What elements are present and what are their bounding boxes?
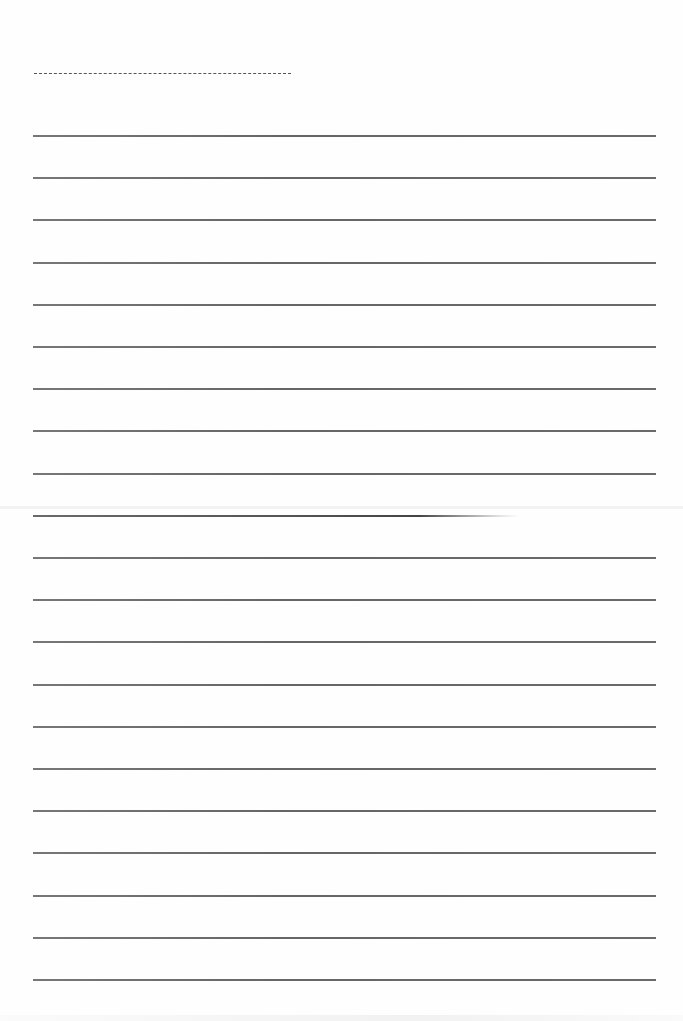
ruled-line — [33, 810, 656, 812]
ruled-line — [33, 219, 656, 221]
ruled-line — [33, 599, 656, 601]
lined-paper-page — [0, 0, 683, 1021]
ruled-line — [33, 726, 656, 728]
ruled-line — [33, 304, 656, 306]
ruled-line — [33, 177, 656, 179]
ruled-line — [33, 388, 656, 390]
ruled-line — [33, 262, 656, 264]
ruled-line — [33, 473, 656, 475]
ruled-line — [33, 135, 656, 137]
name-dashed-line — [34, 73, 291, 74]
ruled-line — [33, 641, 656, 643]
ruled-line — [33, 430, 656, 432]
ruled-line — [33, 937, 656, 939]
scan-artifact-band — [0, 506, 683, 509]
ruled-line — [33, 346, 656, 348]
ruled-line — [33, 768, 656, 770]
scan-artifact-bottom — [0, 1015, 683, 1021]
ruled-line — [33, 515, 656, 517]
ruled-line — [33, 852, 656, 854]
ruled-line — [33, 979, 656, 981]
ruled-line — [33, 895, 656, 897]
ruled-line — [33, 684, 656, 686]
ruled-line — [33, 557, 656, 559]
